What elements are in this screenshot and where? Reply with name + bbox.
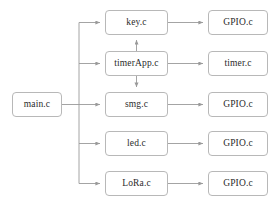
node-label: main.c xyxy=(24,100,51,110)
node-key-c[interactable]: key.c xyxy=(105,10,168,35)
node-label: timer.c xyxy=(224,59,251,69)
node-label: key.c xyxy=(126,18,146,28)
node-label: GPIO.c xyxy=(223,18,253,28)
node-gpio-c-1[interactable]: GPIO.c xyxy=(208,10,268,35)
dependency-diagram: main.c key.c timerApp.c smg.c led.c LoRa… xyxy=(0,0,273,206)
node-timerapp-c[interactable]: timerApp.c xyxy=(105,51,168,76)
node-main-c[interactable]: main.c xyxy=(12,92,62,117)
node-gpio-c-4[interactable]: GPIO.c xyxy=(208,171,268,196)
node-gpio-c-2[interactable]: GPIO.c xyxy=(208,92,268,117)
node-smg-c[interactable]: smg.c xyxy=(105,92,168,117)
node-gpio-c-3[interactable]: GPIO.c xyxy=(208,131,268,156)
node-lora-c[interactable]: LoRa.c xyxy=(105,171,168,196)
node-timer-c[interactable]: timer.c xyxy=(208,51,268,76)
node-label: LoRa.c xyxy=(122,179,151,189)
node-label: GPIO.c xyxy=(223,179,253,189)
node-label: smg.c xyxy=(125,100,148,110)
node-label: GPIO.c xyxy=(223,139,253,149)
node-label: timerApp.c xyxy=(114,59,159,69)
node-label: GPIO.c xyxy=(223,100,253,110)
node-label: led.c xyxy=(127,139,146,149)
node-led-c[interactable]: led.c xyxy=(105,131,168,156)
